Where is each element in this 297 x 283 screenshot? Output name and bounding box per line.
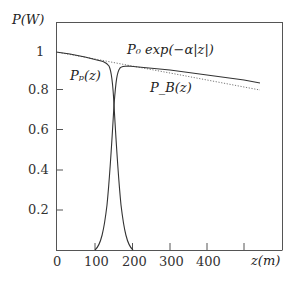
reference-curve-label: P₀ exp(−α|z|) — [126, 42, 214, 57]
x-tick-label: 300 — [159, 254, 184, 269]
x-tick-label: 0 — [53, 254, 61, 269]
y-tick-label: 0.4 — [28, 162, 49, 177]
x-ticks — [95, 243, 244, 250]
y-ticks — [56, 90, 63, 211]
x-tick-label: 200 — [122, 254, 147, 269]
x-axis-label: z(m) — [250, 253, 280, 268]
y-tick-label: 0.6 — [28, 122, 49, 137]
x-tick-label: 100 — [84, 254, 109, 269]
x-tick-label: 400 — [196, 254, 221, 269]
pump-curve-label: Pₚ(z) — [69, 68, 101, 83]
y-tick-label: 0.8 — [28, 82, 49, 97]
y-tick-label: 0.2 — [28, 202, 49, 217]
stokes-curve-label: P_B(z) — [149, 80, 192, 95]
chart: 1 0.8 0.6 0.4 0.2 0 100 200 300 400 P(W)… — [0, 0, 297, 283]
y-axis-label: P(W) — [11, 12, 44, 27]
y-tick-label: 1 — [36, 44, 44, 59]
